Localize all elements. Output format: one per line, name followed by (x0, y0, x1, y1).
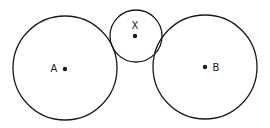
label-x: X (132, 20, 139, 31)
center-point-b (203, 65, 207, 69)
label-a: A (51, 63, 58, 74)
tangent-circles-diagram: A X B (0, 0, 270, 128)
center-point-x (133, 34, 137, 38)
label-b: B (213, 62, 220, 73)
center-point-a (63, 67, 67, 71)
